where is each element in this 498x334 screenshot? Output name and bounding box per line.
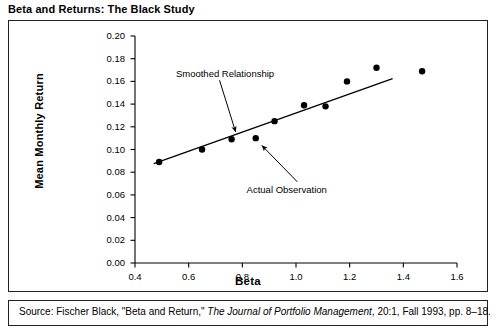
annotation-arrow: [220, 80, 236, 132]
chart-annotation-label: Actual Observation: [247, 184, 327, 195]
x-axis-tick-label: 1.2: [335, 272, 365, 282]
y-axis-tick-label: 0.00: [91, 258, 125, 268]
chart-panel: Mean Monthly Return Beta 0.000.020.040.0…: [8, 20, 488, 292]
chart-plot-area: Mean Monthly Return Beta 0.000.020.040.0…: [9, 21, 487, 291]
annotation-arrow: [262, 146, 297, 182]
source-panel: Source: Fischer Black, "Beta and Return,…: [8, 300, 488, 326]
y-axis-tick-label: 0.10: [91, 145, 125, 155]
y-axis-tick-label: 0.12: [91, 122, 125, 132]
x-axis-tick-label: 0.6: [174, 272, 204, 282]
page-title: Beta and Returns: The Black Study: [8, 3, 195, 15]
y-axis-tick-label: 0.02: [91, 235, 125, 245]
y-axis-tick-label: 0.18: [91, 54, 125, 64]
exhibit-container: Beta and Returns: The Black Study Mean M…: [0, 0, 498, 334]
data-point: [253, 135, 259, 141]
y-axis-tick-label: 0.14: [91, 99, 125, 109]
source-citation: Source: Fischer Black, "Beta and Return,…: [19, 306, 491, 317]
source-prefix: Source: Fischer Black, "Beta and Return,…: [19, 306, 207, 317]
y-axis-title: Mean Monthly Return: [33, 61, 45, 201]
data-point: [322, 103, 328, 109]
y-axis-tick-label: 0.20: [91, 31, 125, 41]
x-axis-tick-label: 0.8: [227, 272, 257, 282]
x-axis-tick-label: 1.0: [281, 272, 311, 282]
trend-line: [154, 79, 393, 164]
data-point: [344, 78, 350, 84]
y-axis-tick-label: 0.08: [91, 167, 125, 177]
y-axis-tick-label: 0.06: [91, 190, 125, 200]
source-journal: The Journal of Portfolio Management: [207, 306, 372, 317]
data-point: [419, 68, 425, 74]
x-axis-tick-label: 1.4: [388, 272, 418, 282]
x-axis-tick-label: 0.4: [120, 272, 150, 282]
data-point: [373, 65, 379, 71]
x-axis-tick-label: 1.6: [442, 272, 472, 282]
data-point: [301, 102, 307, 108]
y-axis-tick-label: 0.04: [91, 213, 125, 223]
source-suffix: , 20:1, Fall 1993, pp. 8–18.: [372, 306, 491, 317]
y-axis-tick-label: 0.16: [91, 76, 125, 86]
chart-annotation-label: Smoothed Relationship: [176, 68, 274, 79]
scatter-chart: [9, 21, 487, 291]
